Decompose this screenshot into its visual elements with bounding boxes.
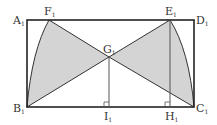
shaded-region-right	[109, 20, 194, 107]
label-B: B1	[13, 102, 25, 115]
label-F: F1	[44, 5, 55, 18]
label-A: A1	[12, 14, 25, 27]
label-G: G1	[103, 43, 116, 56]
label-I: I1	[104, 110, 112, 123]
geometry-diagram: A1 F1 E1 D1 G1 B1 I1 H1 C1	[0, 0, 217, 125]
label-H: H1	[165, 110, 178, 123]
label-E: E1	[165, 5, 177, 18]
label-D: D1	[196, 14, 209, 27]
label-C: C1	[196, 102, 208, 115]
shaded-region-left	[27, 20, 109, 107]
